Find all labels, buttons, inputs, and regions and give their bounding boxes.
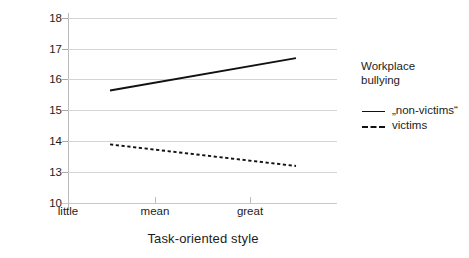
legend-swatch-solid-icon [361,106,386,116]
legend-swatch-dashed-icon [361,121,386,131]
chart-figure: Job satisfaction 18 17 16 15 14 13 10 li… [0,0,469,258]
legend: Workplace bullying „non-victims“ victims [361,60,467,133]
x-tick-label-little: little [38,206,98,218]
x-tick-label-great: great [220,206,280,218]
series-line-non-victims [110,58,296,90]
legend-item-non-victims: „non-victims“ [361,103,467,118]
legend-item-victims: victims [361,118,467,133]
legend-title-line-1: Workplace [361,60,431,74]
legend-title-line-2: bullying [361,74,431,88]
legend-label-non-victims: „non-victims“ [392,105,458,117]
legend-title: Workplace bullying [361,60,431,87]
x-axis-title: Task-oriented style [97,231,309,246]
legend-label-victims: victims [392,120,427,132]
x-tick-label-mean: mean [125,206,185,218]
legend-items: „non-victims“ victims [361,103,467,133]
series-line-victims [110,144,296,166]
